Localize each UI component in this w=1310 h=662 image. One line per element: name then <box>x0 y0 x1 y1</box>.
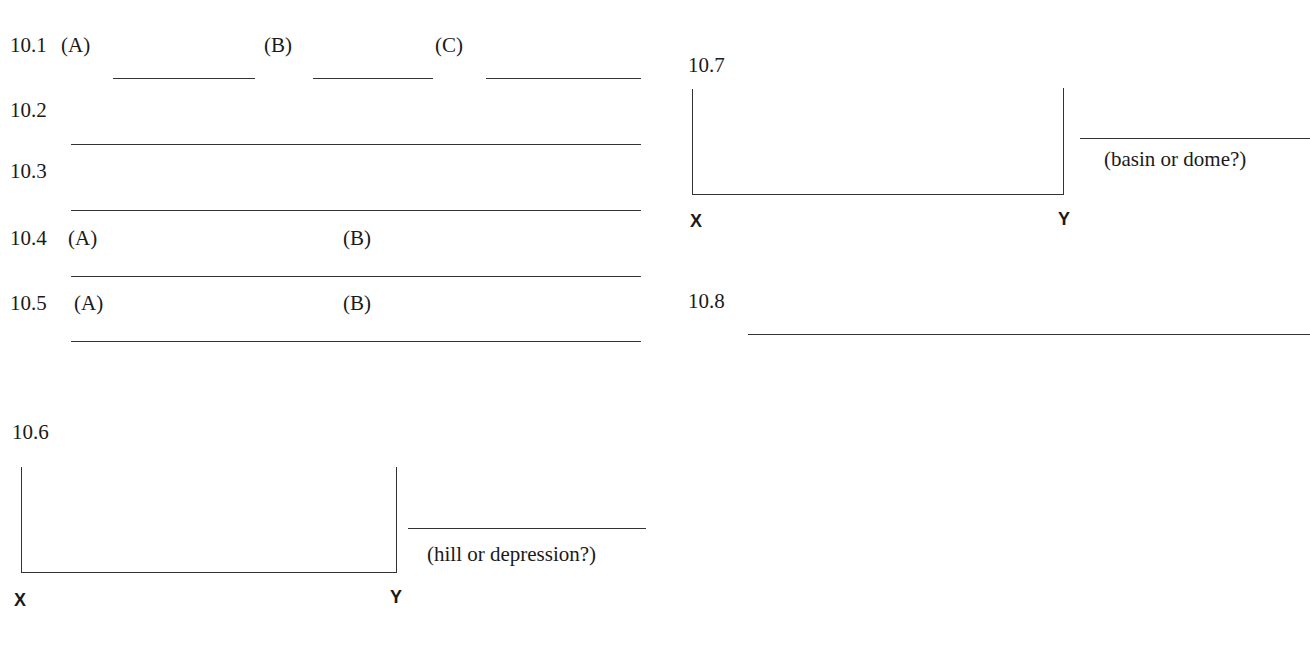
profile-baseline <box>21 572 397 573</box>
answer-line-10-4[interactable] <box>71 276 641 277</box>
question-10-5-part-b: (B) <box>343 291 371 315</box>
question-10-5-part-a: (A) <box>74 291 103 315</box>
profile-10-6-y-label: Y <box>390 587 402 607</box>
profile-10-7-x-label: X <box>690 211 702 231</box>
profile-left-edge <box>692 89 693 195</box>
question-10-4-part-a: (A) <box>68 226 97 250</box>
question-10-1-part-a: (A) <box>61 33 90 57</box>
question-10-1-part-c: (C) <box>435 33 463 57</box>
answer-line-10-1-a[interactable] <box>113 78 255 79</box>
answer-line-10-1-b[interactable] <box>313 78 433 79</box>
profile-box-10-6[interactable] <box>21 467 396 573</box>
question-10-3-number: 10.3 <box>10 159 47 183</box>
profile-baseline <box>692 194 1064 195</box>
question-10-4-number: 10.4 <box>10 226 47 250</box>
answer-hint-10-6: (hill or depression?) <box>427 542 596 566</box>
answer-line-10-2[interactable] <box>71 144 641 145</box>
answer-line-10-8[interactable] <box>748 334 1310 335</box>
profile-right-edge <box>396 467 397 573</box>
profile-box-10-7[interactable] <box>692 89 1063 195</box>
question-10-4-part-b: (B) <box>343 226 371 250</box>
profile-10-6-x-label: X <box>14 590 26 610</box>
answer-line-10-3[interactable] <box>71 210 641 211</box>
profile-10-7-y-label: Y <box>1058 209 1070 229</box>
question-10-6-number: 10.6 <box>12 420 49 444</box>
question-10-1-part-b: (B) <box>264 33 292 57</box>
answer-line-10-1-c[interactable] <box>486 78 641 79</box>
answer-hint-10-7: (basin or dome?) <box>1104 147 1246 171</box>
question-10-2-number: 10.2 <box>10 98 47 122</box>
profile-right-edge <box>1063 88 1064 195</box>
answer-line-10-6[interactable] <box>408 528 646 529</box>
answer-line-10-5[interactable] <box>71 341 641 342</box>
question-10-8-number: 10.8 <box>688 289 725 313</box>
answer-line-10-7[interactable] <box>1080 138 1310 139</box>
question-10-5-number: 10.5 <box>10 291 47 315</box>
profile-left-edge <box>21 467 22 573</box>
question-10-7-number: 10.7 <box>688 53 725 77</box>
question-10-1-number: 10.1 <box>10 33 47 57</box>
